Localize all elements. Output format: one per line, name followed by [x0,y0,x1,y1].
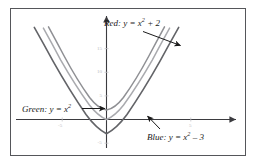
x-tick-label-minus-5: -5 [58,123,62,128]
annotation-red-equation-prefix: y = x [123,18,142,28]
annotation-red: Red: y = x2 + 2 [104,17,160,28]
y-tick-label-minus-5: -5 [98,140,102,145]
annotation-red-equation-suffix: + 2 [145,18,160,28]
arrow-blue [148,116,161,129]
annotation-green-series: Green [22,104,44,114]
y-tick-label-15: 15 [97,46,102,51]
annotation-red-series: Red [104,18,118,28]
annotation-blue-series: Blue [147,132,164,142]
y-tick-label-10: 10 [97,69,102,74]
annotation-green-equation-prefix: y = x [49,104,68,114]
annotation-blue-equation-prefix: y = x [169,132,188,142]
parabola-figure: 15 10 5 -5 -5 5 Red: y = x2 + 2 Green: y… [0,0,256,164]
annotation-green-exponent: 2 [68,103,71,109]
x-tick-label-5: 5 [189,123,192,128]
annotation-blue-equation-suffix: – 3 [190,132,204,142]
annotation-blue: Blue: y = x2 – 3 [147,131,204,142]
annotation-green: Green: y = x2 [22,103,71,114]
y-tick-label-5: 5 [100,93,103,98]
